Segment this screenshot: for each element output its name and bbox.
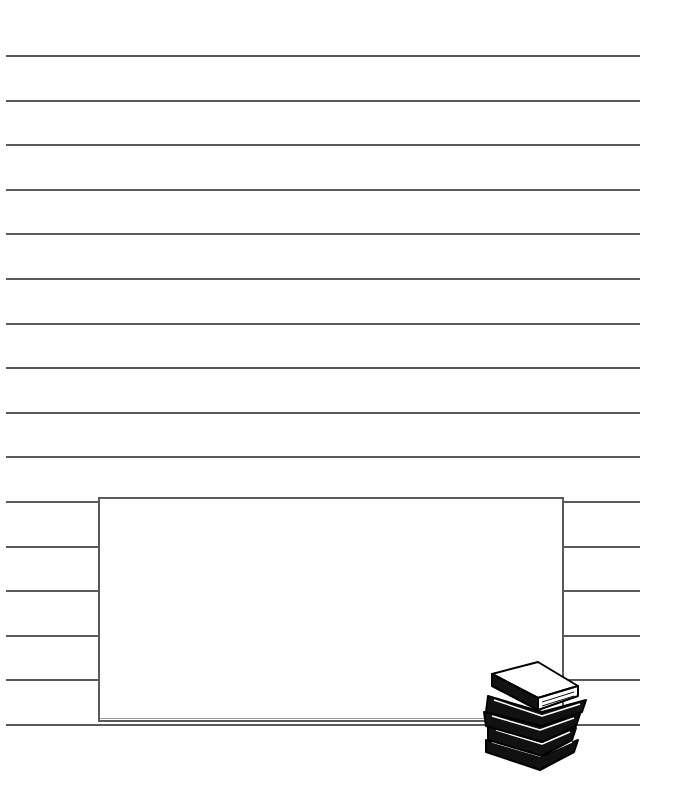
stack-of-books-icon: [482, 660, 592, 772]
writing-line: [6, 233, 640, 235]
writing-line: [6, 100, 640, 102]
writing-line: [6, 55, 640, 57]
writing-line: [6, 323, 640, 325]
writing-line: [6, 456, 640, 458]
writing-line: [6, 367, 640, 369]
writing-line: [6, 144, 640, 146]
writing-line: [6, 189, 640, 191]
lined-paper-page: [0, 0, 678, 799]
writing-line: [6, 412, 640, 414]
writing-line: [6, 278, 640, 280]
